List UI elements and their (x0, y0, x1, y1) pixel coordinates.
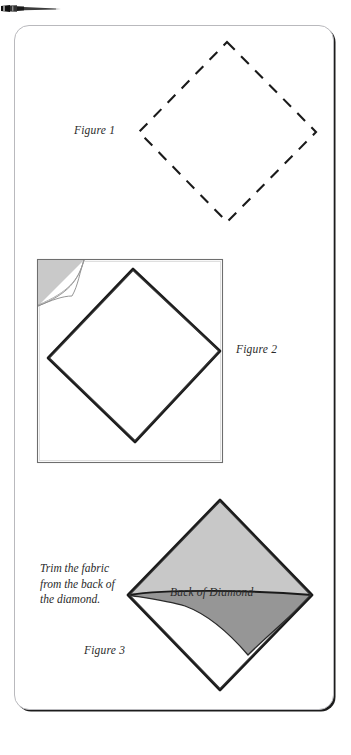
figure-1-label: Figure 1 (74, 124, 115, 136)
page-root: Figure 1 Figure 2 Figure 3 Trim the fabr… (0, 0, 351, 755)
needle-icon (0, 2, 62, 18)
back-of-diamond-label: Back of Diamond (170, 586, 253, 598)
figure-3-label: Figure 3 (84, 644, 125, 656)
figure-2-label: Figure 2 (236, 343, 277, 355)
trim-instruction-text: Trim the fabric from the back of the dia… (40, 561, 115, 608)
